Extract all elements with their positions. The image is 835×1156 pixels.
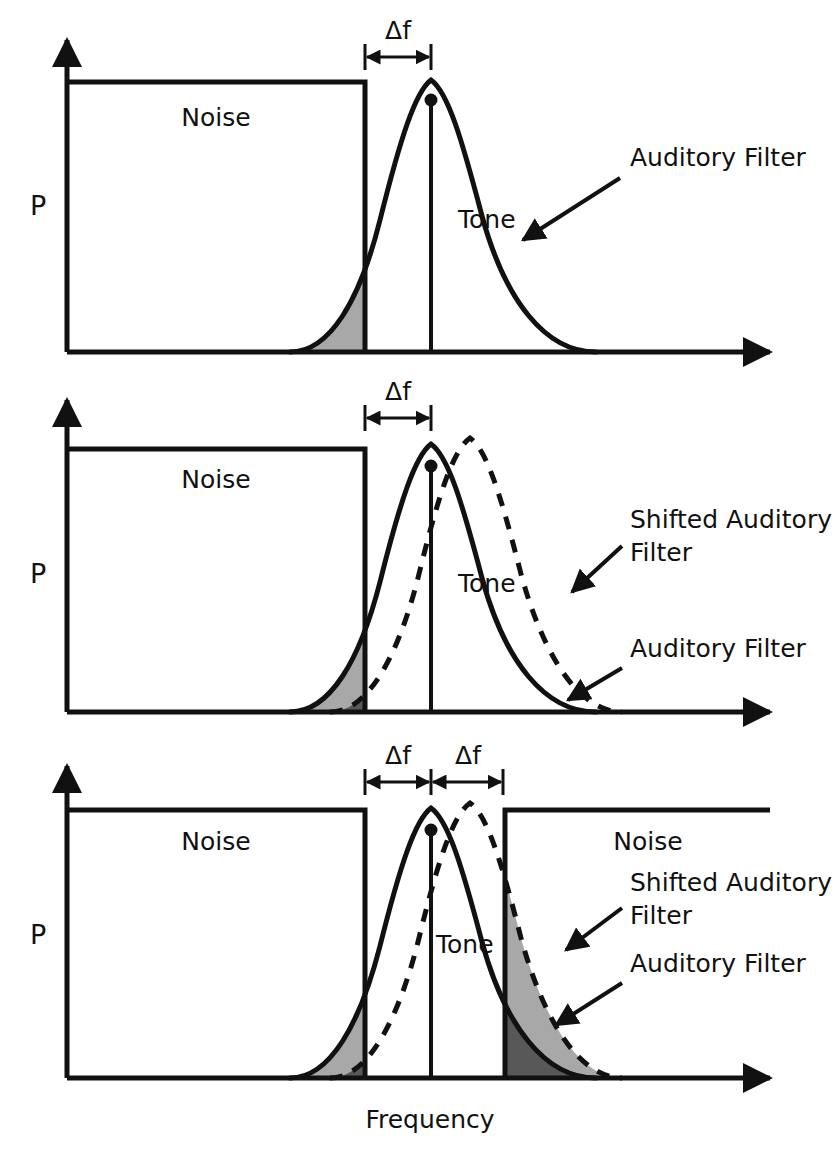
- delta-f-label-right: Δf: [455, 741, 482, 770]
- x-axis-label: Frequency: [365, 1105, 494, 1134]
- tone-marker-dot: [425, 94, 438, 107]
- right-noise-label: Noise: [613, 827, 682, 856]
- y-axis-label: P: [30, 919, 46, 950]
- auditory-filter-figure: Δf P Noise Tone Auditory Filter: [0, 0, 835, 1156]
- tone-label: Tone: [457, 569, 516, 598]
- shifted-auditory-filter-label-line1: Shifted Auditory: [630, 505, 832, 534]
- y-axis-label: P: [30, 190, 46, 221]
- delta-f-label-left: Δf: [385, 741, 412, 770]
- left-noise-label: Noise: [181, 827, 250, 856]
- delta-f-label: Δf: [385, 16, 412, 45]
- tone-marker-dot: [425, 824, 438, 837]
- noise-label: Noise: [181, 465, 250, 494]
- auditory-filter-label: Auditory Filter: [630, 949, 807, 978]
- tone-marker-dot: [425, 460, 438, 473]
- y-axis-label: P: [30, 558, 46, 589]
- noise-label: Noise: [181, 103, 250, 132]
- shifted-auditory-filter-label-line2: Filter: [630, 538, 693, 567]
- tone-label: Tone: [435, 930, 494, 959]
- tone-label: Tone: [457, 205, 516, 234]
- auditory-filter-label: Auditory Filter: [630, 143, 807, 172]
- shifted-auditory-filter-label-line1: Shifted Auditory: [630, 868, 832, 897]
- delta-f-label: Δf: [385, 377, 412, 406]
- shifted-auditory-filter-label-line2: Filter: [630, 901, 693, 930]
- auditory-filter-label: Auditory Filter: [630, 634, 807, 663]
